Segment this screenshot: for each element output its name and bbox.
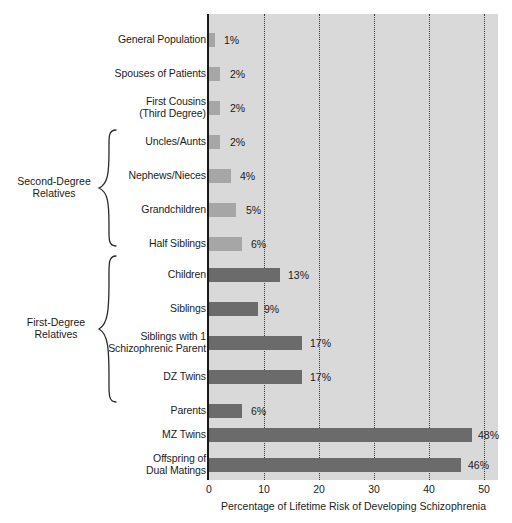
bar-value-label: 1%	[224, 34, 239, 46]
bar[interactable]	[209, 370, 302, 384]
xtick-30: 30	[359, 483, 389, 495]
bar-value-label: 5%	[246, 204, 261, 216]
bar[interactable]	[209, 428, 472, 442]
bar-row-first-cousins: First Cousins (Third Degree) 2%	[0, 101, 512, 115]
bar-row-general-population: General Population 1%	[0, 33, 512, 47]
bar[interactable]	[209, 237, 242, 251]
bar-value-label: 46%	[468, 459, 489, 471]
xtick-0: 0	[194, 483, 224, 495]
bar-value-label: 2%	[230, 102, 245, 114]
bar-value-label: 9%	[264, 303, 279, 315]
bar-row-children: Children 13%	[0, 268, 512, 282]
bar-row-mz-twins: MZ Twins 48%	[0, 428, 512, 442]
xtick-10: 10	[249, 483, 279, 495]
bar-row-half-siblings: Half Siblings 6%	[0, 237, 512, 251]
bar[interactable]	[209, 169, 231, 183]
bar[interactable]	[209, 268, 280, 282]
bar-value-label: 4%	[240, 170, 255, 182]
bar-row-grandchildren: Grandchildren 5%	[0, 203, 512, 217]
bar-row-uncles-aunts: Uncles/Aunts 2%	[0, 135, 512, 149]
bar-row-spouses-of-patients: Spouses of Patients 2%	[0, 67, 512, 81]
row-label: MZ Twins	[6, 429, 206, 441]
x-axis-title: Percentage of Lifetime Risk of Developin…	[209, 500, 498, 512]
bar[interactable]	[209, 101, 220, 115]
bar-value-label: 17%	[310, 337, 331, 349]
bar-value-label: 2%	[230, 68, 245, 80]
bar-value-label: 6%	[251, 238, 266, 250]
bar-row-offspring-of-dual-matings: Offspring of Dual Matings 46%	[0, 458, 512, 472]
row-label: Parents	[6, 405, 206, 417]
bar[interactable]	[209, 67, 220, 81]
brace-label-second-degree: Second-Degree Relatives	[8, 176, 100, 199]
bar-row-parents: Parents 6%	[0, 404, 512, 418]
bar-value-label: 6%	[251, 405, 266, 417]
bar[interactable]	[209, 458, 461, 472]
bar[interactable]	[209, 203, 236, 217]
bar[interactable]	[209, 404, 242, 418]
bar[interactable]	[209, 135, 220, 149]
xtick-20: 20	[304, 483, 334, 495]
bar-value-label: 13%	[288, 269, 309, 281]
row-label: First Cousins (Third Degree)	[6, 96, 206, 119]
bar-value-label: 2%	[230, 136, 245, 148]
xtick-50: 50	[469, 483, 499, 495]
brace-label-first-degree: First-Degree Relatives	[12, 317, 100, 340]
bar[interactable]	[209, 336, 302, 350]
bar[interactable]	[209, 33, 215, 47]
bar-value-label: 48%	[478, 429, 499, 441]
row-label: Offspring of Dual Matings	[6, 453, 206, 476]
bar-row-dz-twins: DZ Twins 17%	[0, 370, 512, 384]
xtick-40: 40	[414, 483, 444, 495]
bar-row-siblings: Siblings 9%	[0, 302, 512, 316]
row-label: General Population	[6, 34, 206, 46]
schizophrenia-risk-bar-chart: General Population 1% Spouses of Patient…	[0, 0, 512, 523]
bar[interactable]	[209, 302, 258, 316]
row-label: Spouses of Patients	[6, 68, 206, 80]
bar-value-label: 17%	[310, 371, 331, 383]
